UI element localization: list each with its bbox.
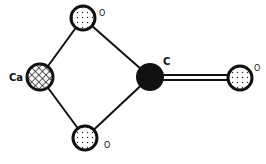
atom-o-bottom: O (73, 126, 110, 150)
oxygen-atom-icon (73, 126, 97, 150)
carbon-atom-icon (137, 64, 163, 90)
atom-c: C (137, 56, 170, 90)
oxygen-atom-icon (228, 66, 252, 90)
calcium-atom-icon (27, 64, 53, 90)
atom-label-ca: Ca (9, 72, 23, 83)
atom-ca: Ca (9, 64, 53, 90)
atom-label-o-right: O (254, 64, 260, 73)
atom-label-c: C (163, 56, 170, 67)
molecule-diagram: Ca O O C O (0, 0, 266, 164)
atom-label-o-bottom: O (104, 141, 110, 150)
oxygen-atom-icon (71, 6, 95, 30)
atom-label-o-top: O (99, 9, 105, 18)
atom-o-top: O (71, 6, 105, 30)
atom-o-right: O (228, 64, 260, 90)
